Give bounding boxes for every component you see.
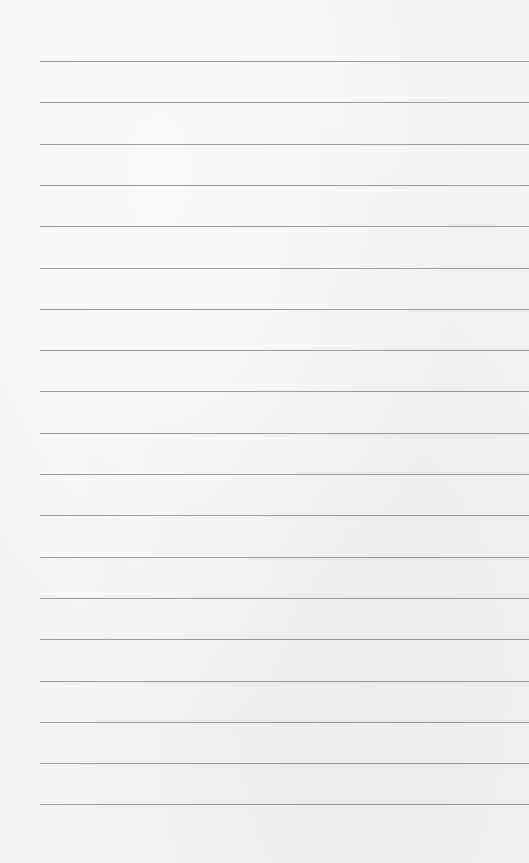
ruled-line	[40, 309, 529, 310]
ruled-line	[40, 515, 529, 516]
ruled-line	[40, 61, 529, 62]
ruled-line	[40, 185, 529, 186]
ruled-line	[40, 268, 529, 269]
ruled-line	[40, 391, 529, 392]
ruled-line	[40, 639, 529, 640]
ruled-line	[40, 474, 529, 475]
ruled-line	[40, 144, 529, 145]
ruled-line	[40, 226, 529, 227]
ruled-line	[40, 722, 529, 723]
ruled-line	[40, 433, 529, 434]
ruled-line	[40, 804, 529, 805]
ruled-line	[40, 763, 529, 764]
ruled-line	[40, 681, 529, 682]
lined-paper	[0, 0, 529, 863]
ruled-line	[40, 102, 529, 103]
ruled-line	[40, 598, 529, 599]
ruled-line	[40, 350, 529, 351]
ruled-line	[40, 557, 529, 558]
